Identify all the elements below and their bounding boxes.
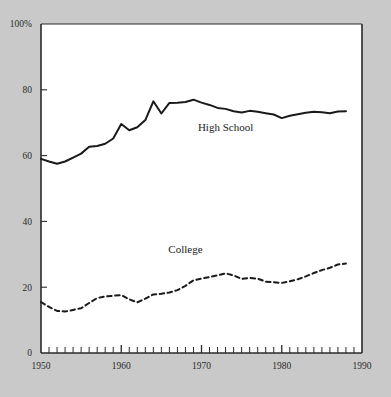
y-tick-label: 60 — [23, 151, 33, 161]
x-tick-label: 1990 — [353, 361, 372, 371]
x-tick-label: 1980 — [272, 361, 291, 371]
x-tick-label: 1970 — [192, 361, 211, 371]
series-label-high-school: High School — [198, 121, 253, 133]
chart-canvas: 100%806040200 19501960197019801990 High … — [0, 0, 391, 397]
x-tick-label: 1950 — [32, 361, 51, 371]
y-tick-label: 100% — [10, 19, 32, 29]
y-tick-label: 20 — [23, 283, 33, 293]
series-label-college: College — [168, 243, 202, 255]
chart-figure: 100%806040200 19501960197019801990 High … — [0, 0, 391, 397]
y-tick-label: 80 — [23, 85, 33, 95]
y-tick-label: 40 — [23, 217, 33, 227]
y-tick-label: 0 — [27, 348, 32, 358]
x-tick-label: 1960 — [112, 361, 131, 371]
